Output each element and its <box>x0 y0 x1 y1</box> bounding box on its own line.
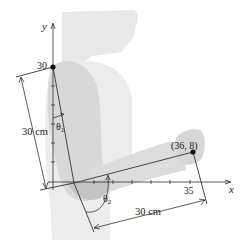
body-silhouette <box>45 10 205 240</box>
x-axis-label: x <box>228 183 234 195</box>
forearm-dimension-label: 30 cm <box>135 206 161 217</box>
shoulder-label: 30 <box>37 60 47 71</box>
forearm-dim-arrow-right-icon <box>199 199 205 205</box>
y-axis-label: y <box>41 20 47 32</box>
shoulder-extension <box>16 67 53 77</box>
hand-label: (36, 8) <box>171 140 198 152</box>
upper-arm-dimension-label: 30 cm <box>22 126 48 137</box>
arm-diagram: y x 30 35 (36, 8) θ1 θ2 30 cm 30 cm <box>0 0 242 240</box>
shoulder-point <box>50 64 55 69</box>
x-tick-label-35: 35 <box>184 186 194 196</box>
